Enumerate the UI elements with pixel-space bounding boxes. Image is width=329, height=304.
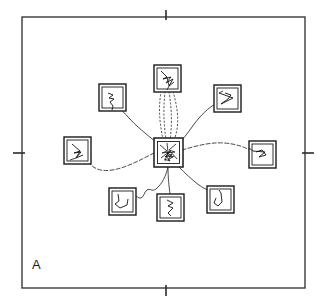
box-west[interactable] [64, 137, 91, 164]
path-center-to-south [168, 167, 170, 194]
path-center-to-north-3 [169, 92, 171, 141]
box-northeast-outer-border [214, 85, 241, 112]
box-southwest-outer-border [109, 188, 136, 215]
box-southeast[interactable] [207, 186, 234, 213]
box-west-outer-border [64, 137, 91, 164]
path-center-to-north-2 [164, 92, 166, 141]
path-center-to-north-4 [173, 92, 178, 140]
box-south[interactable] [157, 194, 184, 221]
box-east[interactable] [249, 141, 276, 168]
box-north[interactable] [154, 65, 181, 92]
path-center-to-west [87, 153, 154, 171]
path-center-to-north-1 [160, 92, 163, 140]
center-box[interactable] [154, 138, 183, 167]
box-southeast-outer-border [207, 186, 234, 213]
figure-panel-a: A [0, 0, 329, 304]
box-southwest[interactable] [109, 188, 136, 215]
box-northeast[interactable] [214, 85, 241, 112]
figure-canvas [0, 0, 329, 304]
path-center-to-east [182, 143, 252, 151]
box-northwest[interactable] [99, 84, 126, 111]
box-south-outer-border [157, 194, 184, 221]
panel-label: A [32, 258, 41, 271]
